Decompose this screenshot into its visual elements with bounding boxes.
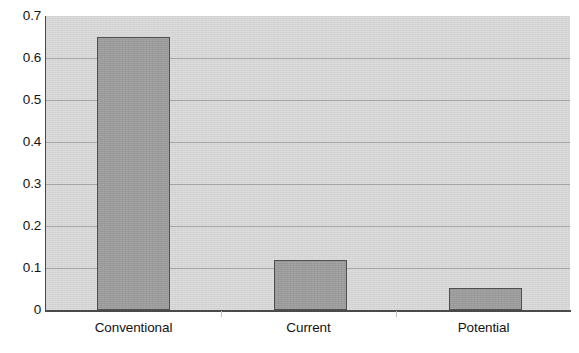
y-axis-line — [45, 16, 46, 311]
bar-fill-texture — [450, 289, 521, 309]
plot-area — [46, 16, 570, 310]
x-axis-line — [45, 310, 571, 312]
x-category-label-potential: Potential — [396, 321, 571, 336]
y-axis-tick-labels: 0.7 0.6 0.5 0.4 0.3 0.2 0.1 0 — [0, 0, 41, 353]
y-tick-label-0.7: 0.7 — [0, 9, 41, 23]
x-tick-mark-1 — [221, 311, 222, 317]
y-tick-label-0.2: 0.2 — [0, 219, 41, 233]
bar-potential — [449, 288, 522, 310]
x-category-label-conventional: Conventional — [46, 321, 221, 336]
y-tick-label-0.4: 0.4 — [0, 135, 41, 149]
y-tick-label-0.1: 0.1 — [0, 261, 41, 275]
y-tick-label-0.3: 0.3 — [0, 177, 41, 191]
bar-fill-texture — [275, 261, 346, 309]
bar-current — [274, 260, 347, 310]
bar-conventional — [97, 37, 170, 310]
bar-fill-texture — [98, 38, 169, 309]
y-tick-label-0.5: 0.5 — [0, 93, 41, 107]
x-tick-mark-2 — [396, 311, 397, 317]
y-tick-label-0: 0 — [0, 303, 41, 317]
y-tick-label-0.6: 0.6 — [0, 51, 41, 65]
bar-chart: 0.7 0.6 0.5 0.4 0.3 0.2 0.1 0 — [0, 0, 579, 353]
x-category-label-current: Current — [221, 321, 396, 336]
